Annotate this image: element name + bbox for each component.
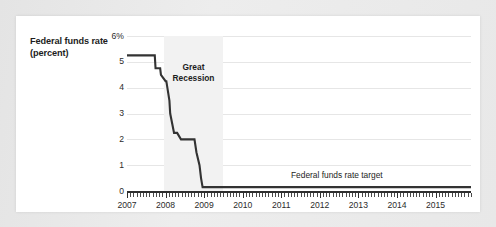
y-tick-label-4: 4 bbox=[98, 83, 124, 92]
x-tick-label-2008: 2008 bbox=[146, 200, 186, 210]
x-tick-minor bbox=[400, 193, 401, 197]
x-tick-minor bbox=[374, 193, 375, 197]
x-tick-minor bbox=[288, 193, 289, 197]
x-tick-minor bbox=[452, 193, 453, 197]
x-tick-minor bbox=[429, 193, 430, 197]
x-tick-minor bbox=[294, 193, 295, 197]
x-tick-minor bbox=[329, 193, 330, 197]
x-tick-minor bbox=[346, 193, 347, 197]
y-axis-tick-labels: 0123456% bbox=[98, 36, 124, 191]
x-tick-minor bbox=[423, 193, 424, 197]
x-tick-label-2010: 2010 bbox=[223, 200, 263, 210]
x-tick-minor bbox=[413, 193, 414, 197]
x-tick-minor bbox=[301, 193, 302, 197]
x-tick-label-2012: 2012 bbox=[300, 200, 340, 210]
x-tick-minor bbox=[182, 193, 183, 197]
target-line-annotation: Federal funds rate target bbox=[291, 170, 383, 180]
x-tick-minor bbox=[323, 193, 324, 197]
x-tick-minor bbox=[291, 193, 292, 197]
x-tick-minor bbox=[140, 193, 141, 197]
x-tick-minor bbox=[304, 193, 305, 197]
x-tick-minor bbox=[223, 193, 224, 197]
x-tick-minor bbox=[191, 193, 192, 197]
x-tick-minor bbox=[198, 193, 199, 197]
x-tick-minor bbox=[207, 193, 208, 197]
x-tick-minor bbox=[233, 193, 234, 197]
x-tick-minor bbox=[143, 193, 144, 197]
x-tick-minor bbox=[252, 193, 253, 197]
x-tick-minor bbox=[326, 193, 327, 197]
x-tick-minor bbox=[445, 193, 446, 197]
x-tick-minor bbox=[365, 193, 366, 197]
x-tick-major bbox=[358, 193, 359, 198]
x-tick-minor bbox=[149, 193, 150, 197]
x-tick-minor bbox=[458, 193, 459, 197]
x-tick-minor bbox=[468, 193, 469, 197]
x-tick-minor bbox=[407, 193, 408, 197]
x-tick-minor bbox=[464, 193, 465, 197]
x-tick-minor bbox=[272, 193, 273, 197]
x-tick-minor bbox=[178, 193, 179, 197]
x-tick-minor bbox=[339, 193, 340, 197]
x-tick-major bbox=[166, 193, 167, 198]
x-axis-tick-labels: 200720082009201020112012201320142015 bbox=[127, 200, 471, 212]
x-tick-minor bbox=[439, 193, 440, 197]
x-tick-minor bbox=[137, 193, 138, 197]
x-tick-minor bbox=[249, 193, 250, 197]
x-tick-minor bbox=[175, 193, 176, 197]
x-tick-minor bbox=[133, 193, 134, 197]
x-tick-minor bbox=[211, 193, 212, 197]
x-tick-major bbox=[397, 193, 398, 198]
x-tick-minor bbox=[416, 193, 417, 197]
x-tick-minor bbox=[371, 193, 372, 197]
x-tick-minor bbox=[355, 193, 356, 197]
x-tick-label-2009: 2009 bbox=[184, 200, 224, 210]
x-tick-major bbox=[281, 193, 282, 198]
series-line-federal-funds-rate bbox=[127, 36, 471, 191]
x-tick-label-2015: 2015 bbox=[416, 200, 456, 210]
x-tick-minor bbox=[214, 193, 215, 197]
x-tick-minor bbox=[227, 193, 228, 197]
x-tick-minor bbox=[265, 193, 266, 197]
x-tick-minor bbox=[313, 193, 314, 197]
x-tick-minor bbox=[230, 193, 231, 197]
x-tick-minor bbox=[130, 193, 131, 197]
x-tick-minor bbox=[410, 193, 411, 197]
x-tick-minor bbox=[461, 193, 462, 197]
x-tick-minor bbox=[448, 193, 449, 197]
x-tick-minor bbox=[384, 193, 385, 197]
y-tick-label-0: 0 bbox=[98, 187, 124, 196]
x-tick-minor bbox=[336, 193, 337, 197]
x-tick-minor bbox=[220, 193, 221, 197]
x-tick-minor bbox=[162, 193, 163, 197]
x-tick-minor bbox=[201, 193, 202, 197]
x-tick-minor bbox=[169, 193, 170, 197]
x-tick-major bbox=[204, 193, 205, 198]
x-tick-major bbox=[243, 193, 244, 198]
x-tick-minor bbox=[239, 193, 240, 197]
x-tick-minor bbox=[362, 193, 363, 197]
x-tick-label-2014: 2014 bbox=[377, 200, 417, 210]
x-tick-minor bbox=[284, 193, 285, 197]
x-tick-minor bbox=[391, 193, 392, 197]
x-tick-minor bbox=[317, 193, 318, 197]
x-tick-minor bbox=[146, 193, 147, 197]
x-tick-minor bbox=[156, 193, 157, 197]
x-tick-minor bbox=[378, 193, 379, 197]
y-tick-label-2: 2 bbox=[98, 135, 124, 144]
x-tick-minor bbox=[432, 193, 433, 197]
figure-root: Federal funds rate (percent) 0123456% Gr… bbox=[0, 0, 496, 227]
x-tick-minor bbox=[256, 193, 257, 197]
x-tick-minor bbox=[188, 193, 189, 197]
x-tick-minor bbox=[394, 193, 395, 197]
x-tick-minor bbox=[307, 193, 308, 197]
x-tick-minor bbox=[159, 193, 160, 197]
x-axis-ticks bbox=[127, 193, 471, 198]
x-tick-major bbox=[436, 193, 437, 198]
x-tick-label-2013: 2013 bbox=[338, 200, 378, 210]
x-tick-minor bbox=[426, 193, 427, 197]
x-tick-minor bbox=[368, 193, 369, 197]
x-tick-minor bbox=[262, 193, 263, 197]
x-tick-minor bbox=[342, 193, 343, 197]
x-tick-minor bbox=[297, 193, 298, 197]
